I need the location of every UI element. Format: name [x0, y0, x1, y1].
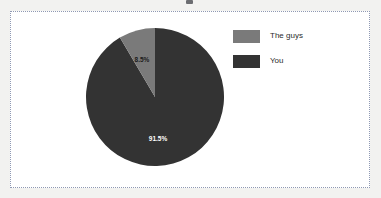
legend-item-you[interactable]: You	[233, 51, 353, 71]
legend-label-you: You	[270, 57, 284, 65]
plot-area: 8.5% 91.5% The guys You	[11, 12, 369, 187]
legend-label-the-guys: The guys	[270, 32, 303, 40]
chart-frame: 8.5% 91.5% The guys You	[10, 11, 370, 188]
pie-chart-svg: 8.5% 91.5%	[86, 28, 224, 166]
pie-label-you: 91.5%	[149, 135, 168, 142]
cropped-title-fragment	[186, 0, 193, 4]
legend-swatch-the-guys	[233, 30, 260, 43]
legend: The guys You	[233, 26, 353, 76]
legend-item-the-guys[interactable]: The guys	[233, 26, 353, 46]
legend-swatch-you	[233, 55, 260, 68]
pie-slice-you[interactable]	[86, 28, 224, 166]
pie-label-the-guys: 8.5%	[135, 56, 150, 63]
pie-chart[interactable]: 8.5% 91.5%	[86, 28, 224, 166]
